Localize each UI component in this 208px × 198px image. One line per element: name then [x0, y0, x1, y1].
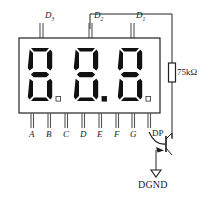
bottom-pin-label-c: C [63, 130, 69, 139]
bottom-pin-label-g: G [130, 130, 137, 139]
bottom-pin-label-d: D [80, 130, 87, 139]
digit-2-seg-g [77, 72, 95, 77]
decimal-point-pin-leg [148, 113, 151, 128]
digit-2-seg-b [93, 50, 98, 71]
digit-1-seg-g [121, 72, 139, 77]
transistor-emitter-arrow [156, 147, 164, 153]
bottom-pin-label-a: A [29, 130, 35, 139]
top-pin-label-d2: D2 [94, 11, 103, 22]
digit-3-decimal-point [56, 97, 61, 102]
bottom-pin-label-e: E [97, 130, 103, 139]
digit-1-decimal-point [146, 97, 151, 102]
circuit-diagram [0, 0, 208, 198]
resistor-value-label: 75kΩ [177, 68, 197, 77]
digit-2-decimal-point [102, 97, 107, 102]
top-pin-label-d1: D1 [136, 11, 145, 22]
schematic-canvas: D3 D2 D1 A B C D E F G DP 75kΩ DGND [0, 0, 208, 198]
transistor-collector-lead [166, 133, 172, 139]
digit-1-seg-b [137, 50, 142, 71]
digit-1-seg-c [137, 79, 142, 100]
digit-3-seg-a [31, 48, 49, 52]
digit-3-seg-c [47, 79, 52, 100]
digit-2-seg-c [93, 79, 98, 100]
digit-3-seg-g [31, 72, 49, 77]
pullup-resistor [169, 63, 176, 138]
ground-symbol [151, 170, 161, 177]
transistor-emitter-lead [166, 148, 172, 155]
digit-2-seg-d [77, 98, 95, 102]
top-pin-label-d3: D3 [45, 11, 54, 22]
digit-1-seg-a [121, 48, 139, 52]
bottom-pin-label-b: B [46, 130, 52, 139]
digit-3-seg-b [47, 50, 52, 71]
bottom-pin-legs [31, 113, 135, 128]
bottom-pin-label-f: F [114, 130, 120, 139]
digit-3-seg-d [31, 98, 49, 102]
ground-label: DGND [138, 180, 168, 190]
bottom-pin-label-dp: DP [152, 129, 164, 138]
digit-2-seg-a [77, 48, 95, 52]
digit-1-seg-d [121, 98, 139, 102]
